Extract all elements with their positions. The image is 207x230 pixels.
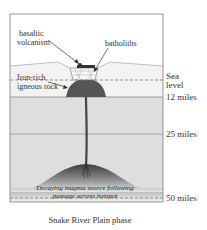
batholiths — [70, 68, 98, 80]
figure-caption: Snake River Plain phase — [0, 215, 180, 225]
label-magma-source-line1: Decaying magma source following — [30, 184, 140, 192]
label-volcanism: volcanism — [17, 39, 50, 47]
label-50-miles: 50 miles — [166, 194, 197, 203]
label-basaltic: basaltic — [19, 30, 43, 38]
label-25-miles: 25 miles — [166, 130, 197, 139]
label-iron-rich: Iron-rich — [17, 74, 45, 82]
label-igneous-rock: igneous rock — [17, 83, 58, 91]
label-12-miles: 12 miles — [166, 93, 197, 102]
label-batholiths: batholiths — [105, 40, 137, 48]
label-level: level — [166, 81, 184, 90]
label-magma-source-line2: passage across hotspot — [30, 192, 140, 200]
